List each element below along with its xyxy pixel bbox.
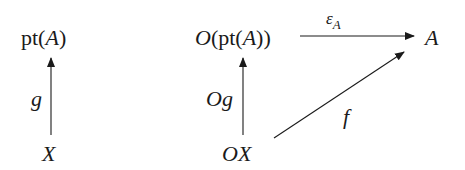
label-f: f — [343, 106, 349, 128]
arrow-f — [274, 52, 404, 138]
node-A: A — [425, 27, 438, 49]
node-X: X — [42, 143, 55, 165]
node-O-pt-A: O(pt(A)) — [195, 27, 271, 49]
label-epsilon-A: εA — [326, 8, 341, 31]
node-pt-A: pt(A) — [21, 27, 66, 49]
label-Og: Og — [206, 88, 233, 110]
label-g: g — [31, 88, 42, 110]
node-OX: OX — [222, 143, 251, 165]
